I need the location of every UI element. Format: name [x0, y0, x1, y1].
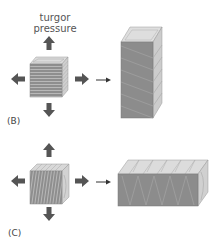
arrow-left-icon	[11, 175, 25, 187]
cube-vertical-fibers	[30, 164, 69, 204]
cube-horizontal-fibers	[30, 57, 68, 97]
arrow-right-icon	[75, 73, 89, 85]
arrow-up-icon	[43, 143, 55, 157]
tall-column-result	[121, 27, 162, 118]
arrow-left-icon	[11, 73, 25, 85]
arrow-right-icon	[75, 175, 89, 187]
long-box-result	[118, 160, 208, 206]
transition-arrow-icon	[96, 78, 111, 83]
arrow-down-icon	[43, 207, 55, 221]
arrow-up-icon	[43, 36, 55, 50]
arrow-down-icon	[43, 103, 55, 117]
panel-b-label: (B)	[7, 116, 20, 126]
diagram-canvas: (B)	[0, 0, 221, 246]
panel-c-label: (C)	[8, 228, 21, 238]
panel-c: (C)	[8, 143, 208, 238]
panel-b: (B)	[7, 27, 162, 126]
transition-arrow-icon	[96, 180, 111, 185]
